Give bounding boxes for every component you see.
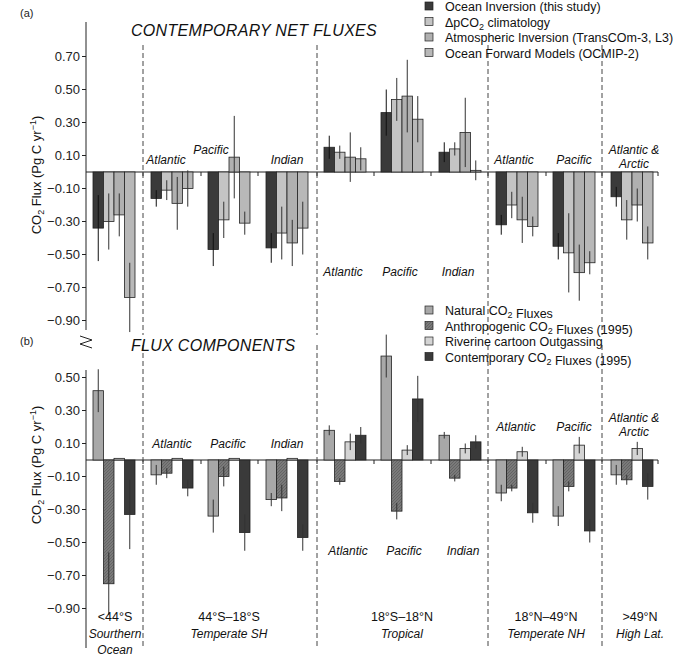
region-label: Pacific xyxy=(556,420,591,434)
region-label: Arctic xyxy=(618,157,649,171)
bar xyxy=(585,172,596,263)
y-tick-label: −0.70 xyxy=(47,568,80,583)
y-axis-label: CO2 Flux (Pg C yr−1) xyxy=(28,116,46,235)
latitude-band-label: 18°N–49°N xyxy=(515,610,578,624)
y-tick-label: 0.30 xyxy=(55,115,80,130)
region-label: Atlantic xyxy=(322,265,362,279)
region-label: Indian xyxy=(271,153,304,167)
legend-swatch xyxy=(425,33,433,41)
region-label: Pacific xyxy=(193,143,228,157)
legend-label: Natural CO2 Fluxes xyxy=(445,304,553,321)
region-label: Arctic xyxy=(618,425,649,439)
y-tick-label: −0.50 xyxy=(47,535,80,550)
bar xyxy=(439,435,450,460)
latitude-band-label: <44°S xyxy=(98,610,133,624)
legend-label: Atmospheric Inversion (TransCOm-3, L3) xyxy=(445,31,673,45)
region-label: Indian xyxy=(271,437,304,451)
panel-label: (a) xyxy=(20,7,33,19)
zone-name-label: Sourthern xyxy=(89,627,142,641)
panel-label: (b) xyxy=(20,335,33,347)
y-tick-label: −0.50 xyxy=(47,247,80,262)
region-label: Atlantic & xyxy=(608,411,660,425)
zone-name-label: Ocean xyxy=(97,643,133,657)
legend-label: Ocean Inversion (this study) xyxy=(445,0,601,14)
latitude-band-label: 18°S–18°N xyxy=(371,610,433,624)
text-layer: 0.700.500.300.10−0.10−0.30−0.50−0.70−0.9… xyxy=(20,0,673,657)
region-label: Pacific xyxy=(382,265,417,279)
region-label: Atlantic xyxy=(493,153,533,167)
y-tick-label: 0.50 xyxy=(55,82,80,97)
region-label: Atlantic xyxy=(145,153,185,167)
legend-swatch xyxy=(425,353,433,361)
region-label: Pacific xyxy=(556,153,591,167)
y-tick-label: 0.30 xyxy=(55,403,80,418)
y-tick-label: −0.90 xyxy=(47,601,80,616)
latitude-band-label: >49°N xyxy=(622,610,657,624)
bar xyxy=(172,458,183,460)
region-label: Indian xyxy=(447,544,480,558)
region-label: Indian xyxy=(442,265,475,279)
bar xyxy=(287,458,298,460)
legend-label: ΔpCO2 climatology xyxy=(445,16,551,32)
legend-swatch xyxy=(425,2,433,10)
y-tick-label: −0.10 xyxy=(47,469,80,484)
panel-title: CONTEMPORARY NET FLUXES xyxy=(131,22,377,39)
y-tick-label: 0.50 xyxy=(55,370,80,385)
y-tick-label: 0.70 xyxy=(55,49,80,64)
legend-swatch xyxy=(425,49,433,57)
bar xyxy=(507,460,518,488)
legend-label: Contemporary CO2 Fluxes (1995) xyxy=(445,351,631,368)
zone-name-label: Temperate NH xyxy=(507,627,585,641)
bar xyxy=(114,458,125,460)
y-tick-label: −0.90 xyxy=(47,313,80,328)
y-axis-label: CO2 Flux (Pg C yr−1) xyxy=(28,406,46,525)
legend-swatch xyxy=(425,18,433,26)
latitude-band-label: 44°S–18°S xyxy=(198,610,259,624)
co2-flux-figure: 0.700.500.300.10−0.10−0.30−0.50−0.70−0.9… xyxy=(0,0,698,670)
y-tick-label: −0.10 xyxy=(47,181,80,196)
zone-name-label: High Lat. xyxy=(616,627,664,641)
panel-title: FLUX COMPONENTS xyxy=(131,337,296,354)
zone-name-label: Temperate SH xyxy=(191,627,268,641)
legend-label: Ocean Forward Models (OCMIP-2) xyxy=(445,47,639,61)
legend-swatch xyxy=(425,322,433,330)
zone-name-label: Tropical xyxy=(381,627,423,641)
bar xyxy=(229,458,240,460)
y-tick-label: −0.70 xyxy=(47,280,80,295)
legend-swatch xyxy=(425,306,433,314)
region-label: Atlantic xyxy=(327,544,367,558)
y-tick-label: −0.30 xyxy=(47,502,80,517)
region-label: Pacific xyxy=(210,437,245,451)
region-label: Atlantic xyxy=(495,420,535,434)
legend-label: Anthropogenic CO2 Fluxes (1995) xyxy=(445,320,633,337)
region-label: Atlantic & xyxy=(608,143,660,157)
y-tick-label: −0.30 xyxy=(47,214,80,229)
legend-swatch xyxy=(425,337,433,345)
y-tick-label: 0.10 xyxy=(55,148,80,163)
region-label: Pacific xyxy=(386,544,421,558)
region-label: Atlantic xyxy=(151,437,191,451)
y-tick-label: 0.10 xyxy=(55,436,80,451)
legend-label: Riverine cartoon Outgassing xyxy=(445,335,603,349)
